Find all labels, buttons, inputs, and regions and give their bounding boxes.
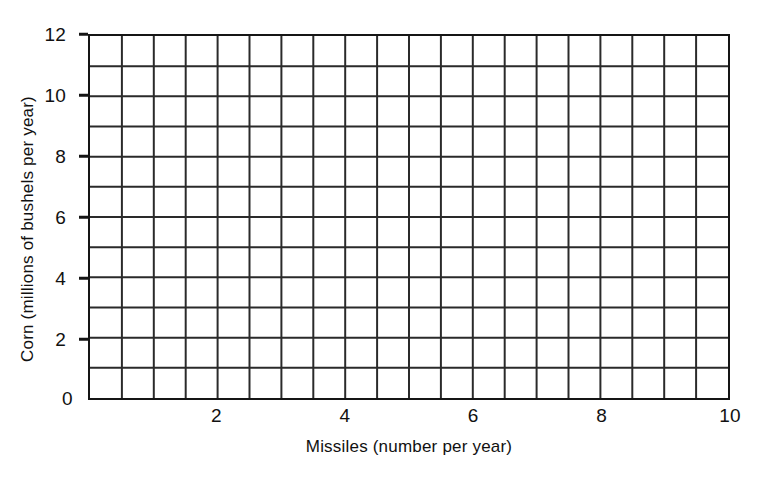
y-tick-mark [79,33,88,36]
plot-area [88,34,730,400]
x-tick-label: 4 [339,406,350,425]
x-tick-label: 8 [596,406,607,425]
y-tick-label: 6 [55,208,66,227]
y-tick-label: 4 [55,269,66,288]
y-tick-label: 2 [55,330,66,349]
y-tick-label: 10 [44,86,66,105]
y-tick-mark [79,216,88,219]
x-axis-tick-labels: 246810 [88,404,730,438]
y-tick-label: 12 [44,25,66,44]
y-axis-title: Corn (millions of bushels per year) [18,46,38,412]
x-tick-label: 6 [468,406,479,425]
x-axis-title: Missiles (number per year) [88,437,730,457]
y-tick-mark [79,155,88,158]
x-tick-label: 2 [211,406,222,425]
y-tick-mark [79,338,88,341]
y-tick-mark [79,277,88,280]
y-axis-title-wrapper: Corn (millions of bushels per year) [18,46,42,412]
y-tick-label: 8 [55,147,66,166]
x-tick-label: 10 [719,406,741,425]
origin-label: 0 [62,389,73,408]
grid-lines [90,36,728,398]
chart-figure: 24681012 246810 0 Missiles (number per y… [0,0,757,481]
y-tick-mark [79,94,88,97]
